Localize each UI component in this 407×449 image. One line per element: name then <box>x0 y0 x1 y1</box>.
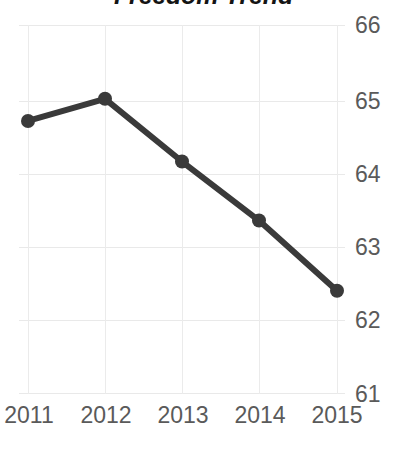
freedom-trend-line-chart: Freedom Trend 66 65 64 63 62 61 2011 201… <box>0 0 407 449</box>
y-axis-tick-label: 64 <box>355 163 401 186</box>
x-axis-tick-label: 2012 <box>63 404 149 427</box>
x-axis-tick-label: 2011 <box>0 404 72 427</box>
data-point <box>252 214 266 228</box>
x-axis-tick-label: 2015 <box>294 404 380 427</box>
data-point <box>98 92 112 106</box>
series-markers <box>21 92 344 298</box>
y-axis-tick-label: 65 <box>355 90 401 113</box>
series-line <box>28 99 337 291</box>
y-axis-tick-label: 66 <box>355 14 401 37</box>
data-point <box>330 284 344 298</box>
y-axis-tick-label: 63 <box>355 236 401 259</box>
x-axis-tick-label: 2014 <box>217 404 303 427</box>
data-series-freedom-score <box>19 25 345 394</box>
page-title: Freedom Trend <box>0 0 407 10</box>
plot-area <box>19 25 345 394</box>
x-axis-tick-label: 2013 <box>140 404 226 427</box>
y-axis-tick-label: 62 <box>355 309 401 332</box>
chart-title-clip: Freedom Trend <box>0 0 407 17</box>
data-point <box>21 114 35 128</box>
data-point <box>175 155 189 169</box>
